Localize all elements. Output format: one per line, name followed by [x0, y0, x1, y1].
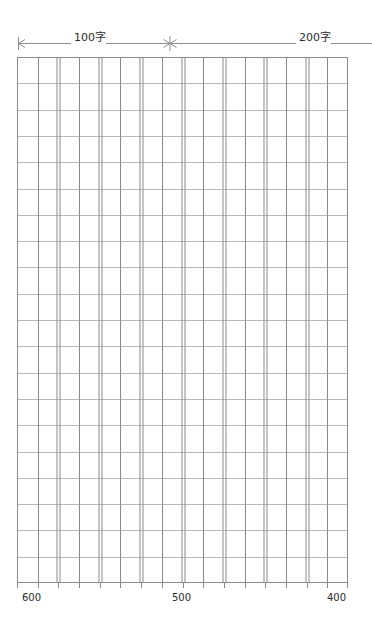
bottom-tick-marks: [18, 583, 348, 588]
bottom-scale-label-500: 500: [172, 592, 191, 604]
bottom-scale-label-600: 600: [22, 592, 41, 604]
bottom-scale-label-400: 400: [327, 592, 346, 604]
character-grid[interactable]: [17, 57, 348, 583]
ruler-label-200-characters: 200字: [299, 31, 331, 44]
character-grid-svg: [17, 57, 348, 583]
bottom-tick-axis: [17, 583, 348, 591]
manuscript-sheet: 100字 200字 600 500 400: [0, 0, 372, 634]
ruler-label-100-characters: 100字: [74, 31, 106, 44]
